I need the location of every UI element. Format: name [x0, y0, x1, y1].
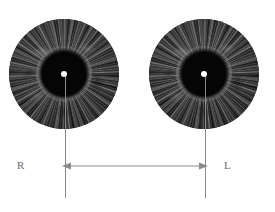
- right-pupil-vertical-axis: [65, 74, 66, 198]
- interpupillary-distance-figure: R L: [0, 0, 275, 212]
- interpupillary-distance-arrow: [62, 160, 208, 172]
- right-corneal-light-reflex-icon: [61, 71, 67, 77]
- double-arrow-icon: [62, 160, 208, 172]
- right-eye-iris: [9, 19, 119, 129]
- right-side-label: R: [17, 159, 25, 171]
- left-corneal-light-reflex-icon: [201, 71, 207, 77]
- left-pupil-vertical-axis: [205, 74, 206, 198]
- left-side-label: L: [224, 159, 231, 171]
- left-eye-iris: [149, 19, 259, 129]
